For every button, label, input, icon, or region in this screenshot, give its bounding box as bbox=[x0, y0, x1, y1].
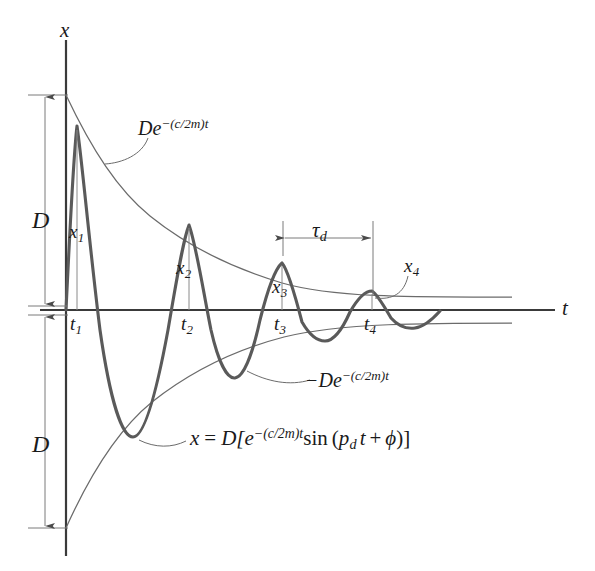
upper-envelope-exponent: −(c/2m)t bbox=[161, 116, 208, 131]
axes-group bbox=[40, 40, 555, 556]
equation-trig: sin bbox=[303, 426, 328, 450]
peak-label-x1: x1 bbox=[69, 222, 84, 245]
leader-upper-envelope-label bbox=[105, 138, 148, 164]
axis-label-x: x bbox=[60, 20, 69, 41]
lower-envelope-label: −De−(c/2m)t bbox=[305, 369, 389, 390]
response-equation: x=D[e−(c/2m)tsin(pdt+ϕ)] bbox=[190, 427, 410, 452]
dimension-D-upper bbox=[28, 95, 68, 306]
damped-response-curve bbox=[66, 126, 440, 437]
tau-symbol: τ bbox=[312, 218, 320, 242]
time-label-t3: t3 bbox=[274, 314, 286, 337]
time-symbol-t1: t bbox=[70, 313, 75, 334]
dimension-D-lower bbox=[28, 315, 68, 528]
envelope-group bbox=[66, 95, 512, 528]
dimension-tau-d bbox=[283, 221, 373, 296]
leader-x4-label bbox=[375, 276, 408, 298]
time-subscript-t3: 3 bbox=[280, 322, 286, 337]
leader-lower-envelope-label bbox=[247, 371, 310, 383]
time-label-t1: t1 bbox=[70, 314, 82, 337]
equation-arg-p-subscript: d bbox=[350, 436, 357, 452]
peak-subscript-x1: 1 bbox=[78, 230, 84, 245]
figure-canvas bbox=[0, 0, 595, 571]
tau-subscript: d bbox=[320, 228, 327, 244]
axis-label-t: t bbox=[562, 298, 568, 319]
upper-envelope-curve bbox=[66, 95, 512, 297]
equation-arg-phi: ϕ bbox=[385, 426, 396, 450]
time-symbol-t3: t bbox=[274, 313, 279, 334]
equation-arg-plus: + bbox=[370, 426, 382, 450]
time-label-t4: t4 bbox=[364, 314, 376, 337]
dimension-label-D-lower: D bbox=[32, 432, 49, 456]
peak-subscript-x3: 3 bbox=[281, 285, 287, 300]
period-label-tau-d: τd bbox=[312, 220, 327, 244]
equation-equals: = bbox=[204, 426, 216, 450]
equation-arg-p: p bbox=[339, 426, 350, 450]
leader-lines bbox=[105, 138, 408, 446]
equation-arg-open: ( bbox=[332, 426, 339, 450]
lower-envelope-exponent: −(c/2m)t bbox=[342, 368, 389, 383]
equation-exponent: −(c/2m)t bbox=[254, 426, 303, 441]
peak-droplines bbox=[77, 130, 372, 310]
peak-subscript-x4: 4 bbox=[413, 264, 419, 279]
peak-symbol-x4: x bbox=[404, 255, 412, 276]
peak-symbol-x3: x bbox=[272, 276, 280, 297]
dimension-label-D-upper: D bbox=[32, 208, 49, 232]
lower-envelope-lead: −De bbox=[305, 369, 342, 391]
equation-lhs: x bbox=[190, 426, 199, 450]
equation-arg-close: )] bbox=[396, 426, 410, 450]
time-subscript-t1: 1 bbox=[76, 322, 82, 337]
peak-subscript-x2: 2 bbox=[185, 266, 191, 281]
leader-equation-label bbox=[139, 440, 186, 446]
equation-body-open: D[e bbox=[221, 426, 254, 450]
equation-arg-t: t bbox=[360, 426, 366, 450]
peak-label-x4: x4 bbox=[404, 256, 419, 279]
time-label-t2: t2 bbox=[181, 314, 193, 337]
peak-label-x3: x3 bbox=[272, 277, 287, 300]
time-subscript-t4: 4 bbox=[370, 322, 376, 337]
peak-label-x2: x2 bbox=[176, 258, 191, 281]
upper-envelope-label: De−(c/2m)t bbox=[138, 117, 208, 138]
peak-symbol-x1: x bbox=[69, 221, 77, 242]
figure-damped-vibration: x t D D De−(c/2m)t −De−(c/2m)t τd x1 x2 … bbox=[0, 0, 595, 571]
upper-envelope-lead: De bbox=[138, 117, 161, 139]
peak-symbol-x2: x bbox=[176, 257, 184, 278]
time-subscript-t2: 2 bbox=[187, 322, 193, 337]
time-symbol-t2: t bbox=[181, 313, 186, 334]
time-symbol-t4: t bbox=[364, 313, 369, 334]
